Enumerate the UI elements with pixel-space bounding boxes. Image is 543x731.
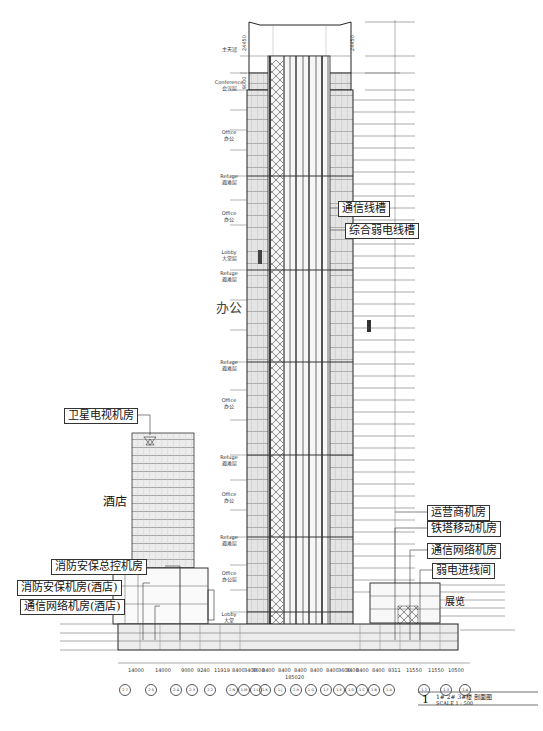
axis-bubble: 1-K bbox=[259, 684, 271, 696]
zone-label-office: Office办公 bbox=[214, 210, 244, 222]
hotel-tower bbox=[132, 433, 194, 568]
zone-cn: 会议层 bbox=[214, 85, 244, 91]
axis-bubble: 2-3 bbox=[186, 684, 198, 696]
callout-weak-current-entry: 弱电进线间 bbox=[432, 563, 495, 579]
axis-bubble: 1-N bbox=[226, 684, 238, 696]
callout-weak-current-trench: 综合弱电线槽 bbox=[345, 223, 419, 239]
axis-bubble: 1-G bbox=[305, 684, 317, 696]
left-podium bbox=[113, 568, 214, 624]
bay-dim: 9311 bbox=[388, 667, 401, 673]
bay-dim: 8400 bbox=[326, 667, 339, 673]
axis-bubble: 1-B bbox=[368, 684, 380, 696]
zone-cn: 避难层 bbox=[214, 365, 244, 371]
callout-fire-security-control: 消防安保总控机房 bbox=[51, 559, 147, 575]
zone-cn: 大堂 bbox=[214, 617, 244, 623]
bay-dim: 8400 bbox=[278, 667, 291, 673]
zone-cn: 办公层 bbox=[214, 576, 244, 582]
bay-dim: 8400 bbox=[232, 667, 245, 673]
axis-bubble: 2-4 bbox=[170, 684, 182, 696]
bay-dim: 10500 bbox=[448, 667, 464, 673]
sheet-number: 1 bbox=[422, 693, 429, 706]
zone-label-office: Office办公 bbox=[214, 129, 244, 141]
bay-dim: 9240 bbox=[197, 667, 210, 673]
zone-cn: 主天冠 bbox=[214, 46, 244, 52]
callout-tower-mobile-room: 铁塔移动机房 bbox=[427, 521, 501, 537]
zone-label-lobby: Lobby大堂 bbox=[214, 611, 244, 623]
axis-bubble: 1-H bbox=[290, 684, 302, 696]
axis-bubble: 1-E bbox=[333, 684, 345, 696]
zone-cn: 避难层 bbox=[214, 540, 244, 546]
bay-dim: 14000 bbox=[128, 667, 144, 673]
left-floor-ticks bbox=[230, 73, 247, 612]
zone-label-conference: Conference会议层 bbox=[214, 79, 244, 91]
axis-bubble: 2-5 bbox=[145, 684, 157, 696]
callout-fire-security-hotel: 消防安保机房(酒店) bbox=[17, 580, 122, 596]
bay-dim: 8400 bbox=[262, 667, 275, 673]
axis-bubble: 1-M bbox=[238, 684, 250, 696]
crown-height-dim: 24450 bbox=[241, 35, 247, 51]
bay-dim: 11550 bbox=[428, 667, 444, 673]
zone-cn: 避难层 bbox=[214, 179, 244, 185]
zone-label-office: Office办公层 bbox=[214, 570, 244, 582]
conference-height-dim: 9000 bbox=[241, 77, 247, 90]
zone-label-refuge: Refuge避难层 bbox=[214, 270, 244, 282]
callout-comm-trench: 通信线槽 bbox=[338, 201, 390, 217]
podium-label: 展览 bbox=[445, 593, 465, 608]
section-drawing bbox=[0, 0, 543, 731]
axis-bubble: 2-7 bbox=[119, 684, 131, 696]
right-podium bbox=[370, 583, 515, 630]
zone-label-refuge: Refuge避难层 bbox=[214, 534, 244, 546]
zone-label-refuge: Refuge避难层 bbox=[214, 454, 244, 466]
bay-dim: 8400 bbox=[372, 667, 385, 673]
callout-satellite-tv-room: 卫星电视机房 bbox=[64, 408, 138, 424]
zone-cn: 避难层 bbox=[214, 460, 244, 466]
drawing-scale: SCALE 1 : 500 bbox=[436, 700, 473, 706]
bay-dim: 9000 bbox=[181, 667, 194, 673]
axis-bubble: 1-J bbox=[274, 684, 286, 696]
bay-dim: 8400 bbox=[310, 667, 323, 673]
zone-cn: 办公 bbox=[214, 403, 244, 409]
callout-operator-room: 运营商机房 bbox=[427, 505, 490, 521]
axis-bubble: 1-A bbox=[383, 684, 395, 696]
bay-dim: 11919 bbox=[214, 667, 230, 673]
hotel-label: 酒店 bbox=[103, 492, 127, 509]
zone-cn: 大堂层 bbox=[214, 255, 244, 261]
elevation-markers bbox=[353, 22, 415, 592]
basement bbox=[60, 624, 458, 650]
total-dim: 185020 bbox=[285, 674, 304, 680]
zone-label-refuge: Refuge避难层 bbox=[214, 359, 244, 371]
tower-body bbox=[247, 56, 371, 646]
bay-dim: 11550 bbox=[406, 667, 422, 673]
axis-bubble: 1-F bbox=[320, 684, 332, 696]
callout-comm-network-room: 通信网络机房 bbox=[427, 543, 501, 559]
zone-label-office: Office办公 bbox=[214, 397, 244, 409]
callout-comm-network-hotel: 通信网络机房(酒店) bbox=[20, 599, 125, 615]
zone-label-lobby: Lobby大堂层 bbox=[214, 249, 244, 261]
zone-cn: 避难层 bbox=[214, 276, 244, 282]
axis-bubble: 1-C bbox=[356, 684, 368, 696]
zone-label-refuge: Refuge避难层 bbox=[214, 173, 244, 185]
zone-label-office: Office办公 bbox=[214, 491, 244, 503]
bay-dim: 8400 bbox=[294, 667, 307, 673]
axis-bubble: 2-2 bbox=[204, 684, 216, 696]
bay-dim: 14000 bbox=[155, 667, 171, 673]
office-large-label: 办公 bbox=[216, 297, 242, 316]
zone-cn: 办公 bbox=[214, 497, 244, 503]
bay-dim: 8400 bbox=[356, 667, 369, 673]
zone-label-crown: 主天冠 bbox=[214, 46, 244, 52]
zone-cn: 办公 bbox=[214, 216, 244, 222]
crown-height-dim-right: 24450 bbox=[349, 35, 355, 51]
zone-cn: 办公 bbox=[214, 135, 244, 141]
